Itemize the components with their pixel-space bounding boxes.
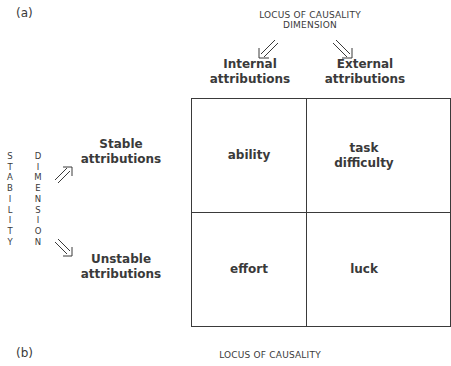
external-attributions-header: External attributions [320, 57, 410, 87]
cell-task-text: task [334, 141, 393, 156]
dimension-letter: I [33, 162, 43, 173]
dimension-letter: E [33, 183, 43, 194]
stability-letter: I [5, 194, 15, 205]
stability-letter: I [5, 215, 15, 226]
panel-a-label: (a) [16, 6, 33, 20]
external-line1: External [320, 57, 410, 72]
double-arrow-down-right-icon [54, 237, 74, 257]
dimension-letter: D [33, 151, 43, 162]
stability-letter: B [5, 183, 15, 194]
stability-letter: T [5, 162, 15, 173]
stable-attributions-label: Stable attributions [76, 137, 166, 167]
panel-b-label: (b) [16, 346, 33, 360]
dimension-letter: N [33, 194, 43, 205]
stability-letter: A [5, 172, 15, 183]
internal-line1: Internal [205, 57, 295, 72]
locus-title-line1: LOCUS OF CAUSALITY [250, 10, 370, 20]
dimension-letter: M [33, 172, 43, 183]
cell-stable-external: task difficulty [307, 99, 421, 212]
internal-attributions-header: Internal attributions [205, 57, 295, 87]
stability-vertical-word: STABILITY [5, 151, 15, 247]
unstable-attributions-label: Unstable attributions [76, 252, 166, 282]
dimension-letter: O [33, 226, 43, 237]
cell-luck-text: luck [350, 262, 378, 277]
cell-effort-text: effort [230, 262, 268, 277]
internal-line2: attributions [205, 72, 295, 87]
stability-letter: T [5, 226, 15, 237]
attribution-matrix: ability task difficulty effort luck [191, 98, 451, 327]
cell-unstable-external: luck [307, 213, 421, 326]
stable-line2: attributions [76, 152, 166, 167]
dimension-letter: S [33, 205, 43, 216]
cell-ability-text: ability [228, 148, 271, 163]
stability-letter: Y [5, 237, 15, 248]
dimension-vertical-word: DIMENSION [33, 151, 43, 247]
locus-title-line2: DIMENSION [250, 20, 370, 30]
locus-of-causality-title: LOCUS OF CAUSALITY DIMENSION [250, 10, 370, 30]
panel-b-locus-title: LOCUS OF CAUSALITY [210, 350, 330, 360]
cell-unstable-internal: effort [192, 213, 306, 326]
double-arrow-up-right-icon [54, 166, 74, 186]
stable-line1: Stable [76, 137, 166, 152]
cell-stable-internal: ability [192, 99, 306, 212]
stability-letter: L [5, 205, 15, 216]
external-line2: attributions [320, 72, 410, 87]
unstable-line1: Unstable [76, 252, 166, 267]
dimension-letter: I [33, 215, 43, 226]
cell-difficulty-text: difficulty [334, 156, 393, 171]
dimension-letter: N [33, 237, 43, 248]
unstable-line2: attributions [76, 267, 166, 282]
stability-letter: S [5, 151, 15, 162]
